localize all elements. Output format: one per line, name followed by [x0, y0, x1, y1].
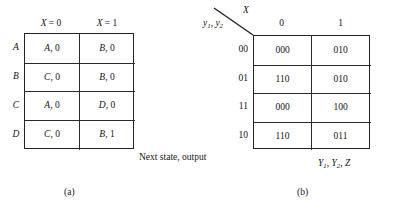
table-a-row-header-2: C [10, 91, 22, 120]
table-a-column-header-x0: X = 0 [24, 18, 78, 28]
table-a-cell-1-0: C, 0 [25, 63, 79, 92]
table-b-row-header-1: 01 [228, 64, 248, 93]
next-state-output-annotation: Next state, output [139, 152, 206, 162]
table-b-cell-1-1: 010 [312, 65, 369, 94]
table-b-cell-2-0: 000 [254, 93, 311, 122]
table-a-cell-2-1: D, 0 [80, 91, 134, 120]
table-a-cell-3-1: B, 1 [80, 120, 134, 149]
panel-a-caption: (a) [64, 187, 75, 197]
panel-b-caption: (b) [297, 187, 308, 197]
table-b-column-header-1: 1 [312, 18, 369, 28]
table-b-row-header-3: 10 [228, 121, 248, 150]
table-a-cell-1-1: B, 0 [80, 63, 134, 92]
table-a-cell-3-0: C, 0 [25, 120, 79, 149]
table-b-row-header-0: 00 [228, 35, 248, 64]
table-b-cell-0-1: 010 [312, 36, 369, 65]
table-b-cell-3-1: 011 [312, 122, 369, 151]
table-b-frame: 000 010 110 010 000 100 110 011 [253, 35, 370, 149]
table-a-column-header-x1: X = 1 [80, 18, 134, 28]
table-b-cell-1-0: 110 [254, 65, 311, 94]
figure-root: X = 0 X = 1 A B C D A, 0 B, 0 C, 0 B, 0 … [0, 0, 403, 214]
table-b-outputs-label: Y1, Y2, Z [318, 158, 350, 169]
table-a-cell-2-0: A, 0 [25, 91, 79, 120]
table-b-cell-3-0: 110 [254, 122, 311, 151]
table-a-frame: A, 0 B, 0 C, 0 B, 0 A, 0 D, 0 C, 0 B, 1 [24, 33, 134, 149]
table-a-row-header-3: D [10, 120, 22, 149]
table-b-cell-0-0: 000 [254, 36, 311, 65]
table-b-row-header-2: 11 [228, 92, 248, 121]
table-b-column-header-0: 0 [253, 18, 310, 28]
table-a-row-header-1: B [10, 62, 22, 91]
table-b-corner-row-label: y1, y2 [203, 18, 223, 29]
table-a-cell-0-0: A, 0 [25, 34, 79, 63]
table-b-cell-2-1: 100 [312, 93, 369, 122]
table-a-row-header-0: A [10, 33, 22, 62]
table-b-corner-col-label: X [243, 5, 249, 15]
table-a-cell-0-1: B, 0 [80, 34, 134, 63]
